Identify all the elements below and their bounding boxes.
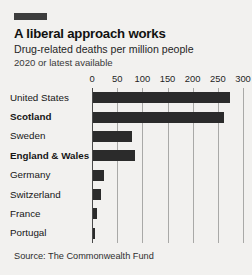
category-label: Switzerland xyxy=(10,189,84,200)
bar xyxy=(93,189,101,200)
category-axis: United StatesScotlandSwedenEngland & Wal… xyxy=(0,88,88,243)
category-label: Scotland xyxy=(10,111,84,122)
category-label: England & Wales xyxy=(10,150,84,161)
bar xyxy=(93,208,97,219)
category-label: Sweden xyxy=(10,130,84,141)
x-tick-label: 100 xyxy=(135,73,151,84)
bar xyxy=(93,228,95,239)
chart-subtitle: Drug-related deaths per million people xyxy=(14,43,194,55)
bar xyxy=(93,112,224,123)
chart-figure: A liberal approach works Drug-related de… xyxy=(0,0,252,275)
accent-marker xyxy=(14,13,47,20)
x-tick-label: 250 xyxy=(210,73,226,84)
bar xyxy=(93,131,132,142)
category-label: Germany xyxy=(10,169,84,180)
chart-title: A liberal approach works xyxy=(14,26,166,41)
chart-note: 2020 or latest available xyxy=(14,57,113,68)
plot-area: 050100150200250300 xyxy=(92,88,243,243)
x-tick-label: 50 xyxy=(112,73,122,84)
source-note: Source: The Commonwealth Fund xyxy=(14,251,154,261)
category-label: Portugal xyxy=(10,227,84,238)
x-tick-label: 150 xyxy=(160,73,176,84)
gridline-300 xyxy=(243,88,244,243)
bar xyxy=(93,150,135,161)
x-tick-label: 0 xyxy=(89,73,94,84)
bar xyxy=(93,170,104,181)
x-tick-label: 300 xyxy=(235,73,251,84)
category-label: United States xyxy=(10,92,84,103)
x-tick-label: 200 xyxy=(185,73,201,84)
bar xyxy=(93,92,230,103)
category-label: France xyxy=(10,208,84,219)
